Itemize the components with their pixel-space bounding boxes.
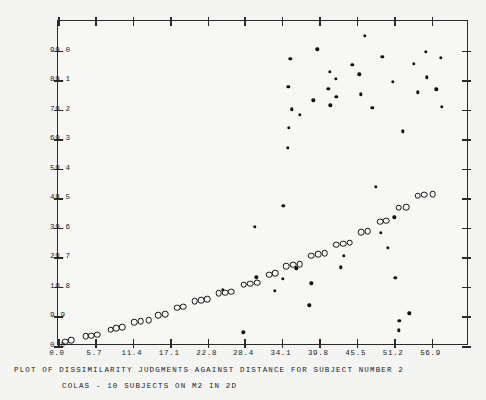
- y-tick-label: 49.5: [50, 193, 71, 201]
- x-tick-label: 11.4: [121, 349, 142, 357]
- data-point-filled-dot: [308, 303, 311, 306]
- data-point-open-circle: [68, 337, 75, 344]
- x-tick-label: 56.9: [420, 349, 441, 357]
- x-tick-label: 22.8: [196, 349, 217, 357]
- y-tick-right: [462, 346, 471, 348]
- data-point-filled-dot: [339, 266, 342, 269]
- data-point-filled-dot: [425, 76, 428, 79]
- data-point-filled-dot: [416, 91, 419, 94]
- x-tick-top: [282, 17, 284, 26]
- x-tick-top: [394, 17, 396, 26]
- data-point-filled-dot: [392, 216, 395, 219]
- y-tick-right: [462, 257, 471, 259]
- data-point-filled-dot: [281, 204, 284, 207]
- data-point-open-circle: [191, 298, 198, 305]
- data-point-filled-dot: [381, 55, 384, 58]
- y-tick-label: 79.2: [50, 105, 71, 113]
- x-tick-top: [208, 17, 210, 26]
- y-tick-label: 99.0: [50, 46, 71, 54]
- data-point-filled-dot: [241, 331, 244, 334]
- data-point-open-circle: [321, 250, 328, 257]
- y-tick-right: [462, 51, 471, 53]
- data-point-filled-dot: [439, 56, 442, 59]
- data-point-open-circle: [180, 304, 187, 311]
- x-tick-top: [95, 17, 97, 26]
- data-point-open-circle: [358, 229, 365, 236]
- x-tick-bottom: [394, 339, 396, 348]
- y-tick-right: [462, 139, 471, 141]
- y-tick-right: [462, 169, 471, 171]
- x-tick-top: [58, 17, 60, 26]
- data-point-filled-dot: [397, 329, 400, 332]
- data-point-filled-dot: [316, 48, 319, 51]
- plot-canvas: 0.05.711.417.122.828.434.139.845.551.256…: [0, 0, 486, 400]
- x-tick-top: [319, 17, 321, 26]
- y-tick-label: 0.0: [50, 341, 66, 349]
- data-point-filled-dot: [408, 311, 411, 314]
- data-point-open-circle: [155, 312, 162, 319]
- data-point-filled-dot: [401, 129, 404, 132]
- data-point-filled-dot: [398, 319, 401, 322]
- y-tick-label: 39.6: [50, 223, 71, 231]
- data-point-filled-dot: [329, 103, 332, 106]
- data-point-filled-dot: [335, 95, 338, 98]
- x-tick-bottom: [432, 339, 434, 348]
- data-point-filled-dot: [287, 126, 290, 129]
- data-point-filled-dot: [379, 231, 382, 234]
- data-point-filled-dot: [342, 254, 345, 257]
- y-tick-label: 29.7: [50, 252, 71, 260]
- y-tick-right: [462, 316, 471, 318]
- data-point-filled-dot: [394, 276, 397, 279]
- data-point-filled-dot: [412, 62, 415, 65]
- data-point-open-circle: [254, 279, 261, 286]
- y-tick-right: [462, 287, 471, 289]
- data-point-filled-dot: [328, 70, 331, 73]
- data-point-filled-dot: [290, 108, 293, 111]
- data-point-filled-dot: [374, 185, 377, 188]
- data-point-open-circle: [395, 205, 402, 212]
- x-tick-label: 5.7: [87, 349, 103, 357]
- data-point-open-circle: [346, 239, 353, 246]
- plot-frame: [57, 20, 468, 345]
- data-point-filled-dot: [312, 99, 315, 102]
- x-tick-bottom: [208, 339, 210, 348]
- x-tick-top: [133, 17, 135, 26]
- data-point-open-circle: [421, 191, 428, 198]
- data-point-open-circle: [365, 228, 372, 235]
- x-tick-label: 17.1: [159, 349, 180, 357]
- y-tick-right: [462, 80, 471, 82]
- y-tick-label: 69.3: [50, 134, 71, 142]
- data-point-filled-dot: [424, 50, 427, 53]
- y-tick-right: [462, 228, 471, 230]
- data-point-filled-dot: [371, 106, 374, 109]
- data-point-open-circle: [296, 261, 303, 268]
- x-tick-label: 51.2: [383, 349, 404, 357]
- x-tick-top: [170, 17, 172, 26]
- data-point-filled-dot: [310, 282, 313, 285]
- data-point-open-circle: [162, 311, 169, 318]
- x-tick-bottom: [170, 339, 172, 348]
- y-tick-label: 59.4: [50, 164, 71, 172]
- data-point-filled-dot: [386, 246, 389, 249]
- plot-subtitle-caption: COLAS - 10 SUBJECTS ON M2 IN 2D: [62, 382, 237, 390]
- x-tick-bottom: [133, 339, 135, 348]
- x-tick-label: 28.4: [233, 349, 254, 357]
- data-point-filled-dot: [298, 113, 301, 116]
- data-point-filled-dot: [295, 267, 298, 270]
- x-tick-label: 45.5: [345, 349, 366, 357]
- x-tick-label: 0.0: [49, 349, 65, 357]
- x-tick-label: 34.1: [270, 349, 291, 357]
- data-point-open-circle: [403, 204, 410, 211]
- data-point-filled-dot: [273, 289, 276, 292]
- data-point-filled-dot: [281, 277, 284, 280]
- data-point-filled-dot: [359, 92, 362, 95]
- y-tick-label: 9.9: [50, 311, 66, 319]
- plot-title-caption: PLOT OF DISSIMILARITY JUDGMENTS AGAINST …: [14, 366, 404, 374]
- x-tick-top: [244, 17, 246, 26]
- data-point-filled-dot: [434, 88, 437, 91]
- data-point-filled-dot: [350, 63, 353, 66]
- y-tick-label: 89.1: [50, 75, 71, 83]
- y-tick-label: 19.8: [50, 282, 71, 290]
- x-tick-bottom: [95, 339, 97, 348]
- y-tick-right: [462, 110, 471, 112]
